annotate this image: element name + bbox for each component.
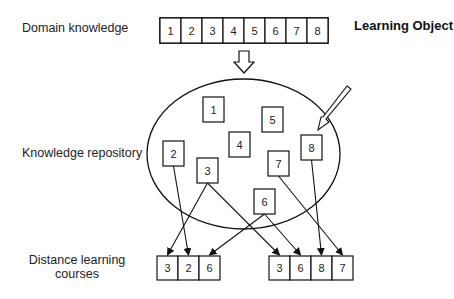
domain-cell-8: 8 [307,18,328,43]
svg-text:4: 4 [236,139,242,151]
learning-object-7: 7 [268,151,289,176]
connection-3-to-course-1 [168,183,208,255]
distance-learning-courses: 3263687 [157,256,353,280]
svg-text:8: 8 [318,262,324,274]
learning-object-2: 2 [163,141,184,166]
svg-text:1: 1 [167,25,173,37]
course-2-cell-3: 3 [269,256,290,280]
svg-text:6: 6 [261,196,267,208]
svg-text:1: 1 [210,104,216,116]
learning-object-pointer-icon [318,86,351,130]
learning-object-6: 6 [254,189,275,214]
svg-text:2: 2 [185,262,191,274]
course-2-cell-6: 6 [290,256,311,280]
learning-object-8: 8 [301,135,322,160]
connection-6-to-course-1 [210,214,265,255]
domain-cell-5: 5 [244,18,265,43]
course-1-cell-6: 6 [199,256,220,280]
svg-text:6: 6 [272,25,278,37]
connection-2-to-course-1 [174,166,189,255]
svg-text:3: 3 [164,262,170,274]
svg-text:5: 5 [269,114,275,126]
connection-7-to-course-2 [279,176,343,255]
svg-text:6: 6 [297,262,303,274]
course-1-cell-3: 3 [157,256,178,280]
down-arrow-icon [234,51,254,73]
course-2-cell-8: 8 [311,256,332,280]
svg-text:6: 6 [206,262,212,274]
svg-text:7: 7 [293,25,299,37]
domain-cell-1: 1 [160,18,181,43]
course-1: 326 [157,256,220,280]
svg-text:8: 8 [308,142,314,154]
learning-object-3: 3 [197,158,218,183]
course-1-cell-2: 2 [178,256,199,280]
domain-cell-2: 2 [181,18,202,43]
svg-text:4: 4 [230,25,236,37]
connection-8-to-course-2 [312,160,322,255]
domain-cell-6: 6 [265,18,286,43]
svg-text:7: 7 [339,262,345,274]
connection-6-to-course-2 [265,214,301,255]
domain-cell-7: 7 [286,18,307,43]
svg-text:3: 3 [276,262,282,274]
svg-text:8: 8 [314,25,320,37]
course-2: 3687 [269,256,353,280]
svg-text:3: 3 [209,25,215,37]
course-2-cell-7: 7 [332,256,353,280]
svg-text:3: 3 [204,165,210,177]
svg-text:7: 7 [275,158,281,170]
domain-cell-4: 4 [223,18,244,43]
diagram-canvas: 12345678 15482736 3263687 [0,0,454,299]
svg-text:2: 2 [188,25,194,37]
learning-object-4: 4 [229,132,250,157]
learning-object-1: 1 [203,97,224,122]
domain-cell-3: 3 [202,18,223,43]
svg-text:2: 2 [170,148,176,160]
repository-objects: 15482736 [163,97,322,214]
learning-object-5: 5 [262,107,283,132]
svg-text:5: 5 [251,25,257,37]
domain-knowledge-bar: 12345678 [160,18,328,43]
